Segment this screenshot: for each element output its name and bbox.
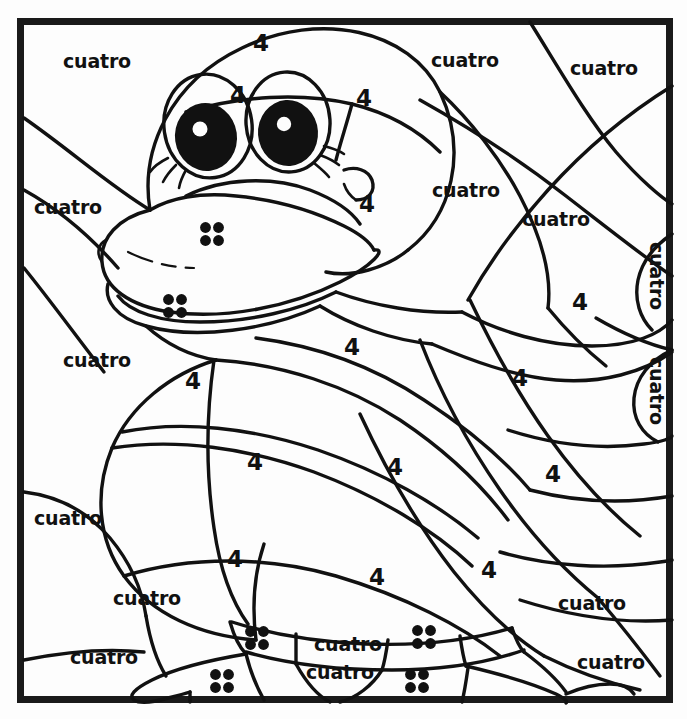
dot [405, 682, 416, 693]
number-label: 4 [359, 191, 375, 217]
number-label: 4 [387, 454, 403, 480]
dot [200, 235, 211, 246]
dot [223, 682, 234, 693]
right-eye-highlight [277, 117, 291, 131]
number-label: 4 [253, 30, 269, 56]
dot [418, 669, 429, 680]
dot [200, 222, 211, 233]
dot [176, 294, 187, 305]
cuatro-label: cuatro [113, 587, 181, 609]
cuatro-label: cuatro [431, 49, 499, 71]
dot [418, 682, 429, 693]
coloring-page-artwork: cuatrocuatrocuatrocuatrocuatrocuatrocuat… [0, 0, 687, 719]
number-label: 4 [230, 82, 246, 108]
number-label: 4 [369, 564, 385, 590]
dot [425, 625, 436, 636]
cuatro-label: cuatro [34, 196, 102, 218]
number-label: 4 [227, 546, 243, 572]
cuatro-label: cuatro [70, 646, 138, 668]
dot [245, 626, 256, 637]
dot [258, 639, 269, 650]
cuatro-label: cuatro [63, 50, 131, 72]
number-label: 4 [344, 334, 360, 360]
number-label: 4 [356, 85, 372, 111]
number-label: 4 [185, 368, 201, 394]
cuatro-label: cuatro [432, 179, 500, 201]
cuatro-label: cuatro [314, 633, 382, 655]
cuatro-label-rotated: cuatro [646, 242, 668, 310]
dot [163, 307, 174, 318]
dot [213, 235, 224, 246]
dot [245, 639, 256, 650]
dot [210, 682, 221, 693]
number-label: 4 [512, 365, 528, 391]
dot [163, 294, 174, 305]
cuatro-label-rotated: cuatro [646, 357, 668, 425]
dot [210, 669, 221, 680]
cuatro-label: cuatro [34, 507, 102, 529]
worksheet-canvas: cuatrocuatrocuatrocuatrocuatrocuatrocuat… [0, 0, 687, 719]
cuatro-label: cuatro [522, 208, 590, 230]
dot [405, 669, 416, 680]
cuatro-label: cuatro [558, 592, 626, 614]
cuatro-label: cuatro [577, 651, 645, 673]
dot [258, 626, 269, 637]
number-label: 4 [247, 449, 263, 475]
number-label: 4 [545, 461, 561, 487]
dot [412, 638, 423, 649]
cuatro-label: cuatro [63, 349, 131, 371]
dot [412, 625, 423, 636]
dot [213, 222, 224, 233]
dot [223, 669, 234, 680]
cuatro-label: cuatro [570, 57, 638, 79]
dot [425, 638, 436, 649]
cuatro-label: cuatro [306, 661, 374, 683]
dot [176, 307, 187, 318]
number-label: 4 [481, 557, 497, 583]
number-label: 4 [572, 289, 588, 315]
left-eye-highlight [193, 122, 208, 137]
